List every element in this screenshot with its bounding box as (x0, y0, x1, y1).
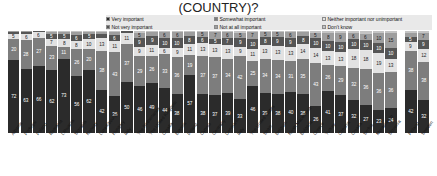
bar-segment-value: 6 (201, 38, 204, 43)
bar-segment-value: 8 (75, 43, 78, 48)
bar-segment: 13 (272, 46, 283, 59)
bar-segment-value: 11 (187, 47, 192, 52)
bar-segment: 18 (360, 50, 371, 68)
bar-segment: 10 (360, 40, 371, 50)
x-axis-label-cell: The United States (247, 133, 258, 176)
bar-segment-value: 13 (338, 57, 343, 62)
x-axis-label-cell: Norway (83, 133, 94, 176)
legend-swatch-not-very-important (106, 25, 110, 29)
bar-segment-value: 5 (314, 33, 317, 38)
bar-segment-value: 18 (351, 56, 356, 61)
legend-item-neither[interactable]: Neither important nor unimportant (322, 15, 432, 22)
bar-segment-value: 35 (300, 74, 305, 79)
bar-segment-value: 27 (36, 50, 41, 55)
bar-segment: 9 (335, 33, 346, 42)
bar-segment-value: 10 (376, 36, 381, 41)
bar-segment-value: 6 (226, 33, 229, 38)
x-axis-label-cell: Croatia (159, 133, 170, 176)
bar-segment: 33 (159, 54, 170, 88)
legend-item-somewhat-important[interactable]: Somewhat important (214, 15, 322, 22)
bar-segment-value: 5 (138, 33, 141, 38)
x-axis-label-cell: Luxembourg (96, 133, 107, 176)
bar-segment-value: 5 (214, 39, 217, 44)
bar-segment: 25 (247, 61, 258, 87)
bar-segment-value: 6 (25, 35, 28, 40)
legend-item-not-very-important[interactable]: Not very important (106, 23, 214, 30)
bar-segment: 7 (209, 32, 220, 39)
bar-segment-value: 13 (99, 42, 104, 47)
bar-segment: 9 (285, 38, 296, 47)
bar-segment: 10 (385, 48, 396, 58)
x-axis-label-cell: Finland (405, 133, 416, 176)
legend-item-very-important[interactable]: Very important (106, 15, 214, 22)
bar-segment-value: 6 (176, 33, 179, 38)
bar-segment-value: 13 (225, 50, 230, 55)
bar-segment-value: 13 (263, 50, 268, 55)
bar-segment-value: 5 (409, 37, 412, 42)
bar-segment-value: 38 (408, 68, 413, 73)
bar-segment: 13 (322, 51, 333, 64)
bar-segment-value: 11 (62, 51, 67, 56)
bar-segment: 9 (134, 47, 145, 56)
bar-column[interactable]: 1252072 (8, 31, 19, 133)
bar-segment: 28 (21, 40, 32, 69)
x-axis-label-cell: Romania (46, 133, 57, 176)
bar-segment: 26 (146, 56, 157, 83)
bar-segment: 13 (209, 44, 220, 57)
x-label-gap (398, 133, 404, 176)
bar-segment: 8 (322, 33, 333, 41)
bar-segment: 10 (373, 33, 384, 43)
bar-segment-value: 7 (422, 34, 425, 39)
bar-segment: 13 (222, 45, 233, 58)
bar-segment-value: 6 (113, 36, 116, 41)
bar-segment: 9 (146, 36, 157, 45)
bar-segment-value: 33 (162, 69, 167, 74)
bar-segment-value: 20 (11, 47, 16, 52)
bar-segment: 15 (385, 33, 396, 48)
bar-segment-value: 6 (365, 35, 368, 40)
x-axis-label-cell: Lithuania (58, 133, 69, 176)
bar-column[interactable]: 24593842 (405, 31, 416, 133)
x-axis-label-cell: Greece (310, 133, 321, 176)
bar-segment-value: 42 (237, 76, 242, 81)
bar-segment-value: 34 (275, 74, 280, 79)
bar-segment: 9 (405, 42, 416, 51)
bar-segment: 8 (58, 39, 69, 47)
bar-segment-value: 13 (212, 48, 217, 53)
bar-segment: 13 (260, 45, 271, 58)
legend-swatch-somewhat-important (214, 17, 218, 21)
bar-segment-value: 9 (239, 40, 242, 45)
bar-segment-value: 26 (74, 60, 79, 65)
bar-segment: 9 (418, 40, 429, 49)
legend-item-not-at-all-important[interactable]: Not at all important (214, 23, 322, 30)
bar-segment-value: 20 (87, 57, 92, 62)
bar-segment-value: 6 (38, 33, 41, 38)
bar-segment-value: 10 (363, 43, 368, 48)
bar-segment-value: 28 (24, 52, 29, 57)
bar-segment-value: 38 (99, 68, 104, 73)
bar-segment: 10 (247, 39, 258, 49)
bar-segment-value: 7 (226, 39, 229, 44)
bar-segment: 9 (134, 38, 145, 47)
bar-segment-value: 15 (388, 38, 393, 43)
bar-segment: 8 (260, 37, 271, 45)
x-axis-label-cell: Italy (121, 133, 132, 176)
bar-segment: 11 (58, 47, 69, 58)
bar-segment-value: 6 (352, 34, 355, 39)
bar-segment: 10 (159, 38, 170, 48)
bar-segment-value: 9 (339, 35, 342, 40)
bar-segment-value: 7 (50, 40, 53, 45)
bar-segment: 20 (8, 39, 19, 59)
x-axis-label-cell: Cyprus (197, 133, 208, 176)
bar-segment: 8 (71, 41, 82, 49)
bar-segment: 19 (373, 53, 384, 72)
bar-segment-value: 5 (239, 33, 242, 38)
x-axis-label-cell: Albania (8, 133, 19, 176)
bar-segment-value: 11 (150, 49, 155, 54)
legend-item-dont-know[interactable]: Don't know (322, 23, 432, 30)
x-axis-label-cell: Slovenia (385, 133, 396, 176)
x-axis-label-cell: Estonia (172, 133, 183, 176)
bar-segment: 10 (373, 43, 384, 53)
bar-segment: 37 (121, 44, 132, 82)
bar-segment: 14 (310, 48, 321, 62)
